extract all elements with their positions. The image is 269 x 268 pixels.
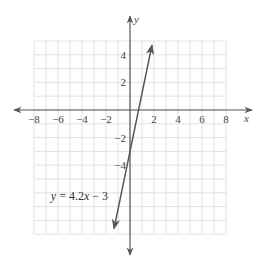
y-axis-label: y — [133, 13, 139, 25]
x-tick-label: 4 — [175, 113, 181, 125]
x-tick-label: 2 — [151, 113, 157, 125]
x-tick-label: −2 — [100, 113, 112, 125]
y-tick-label: −4 — [114, 159, 126, 171]
x-tick-label: 8 — [223, 113, 229, 125]
x-axis-label: x — [243, 112, 249, 124]
y-tick-label: −2 — [114, 132, 126, 144]
y-tick-label: 2 — [121, 76, 127, 88]
line-chart: −8−6−4−2246842−2−4 x y y = 4.2x − 3 — [0, 0, 269, 268]
x-tick-label: −4 — [76, 113, 88, 125]
y-tick-label: 4 — [121, 49, 127, 61]
x-tick-label: −8 — [28, 113, 40, 125]
x-tick-label: −6 — [52, 113, 64, 125]
x-tick-label: 6 — [199, 113, 205, 125]
equation-label: y = 4.2x − 3 — [50, 189, 108, 203]
